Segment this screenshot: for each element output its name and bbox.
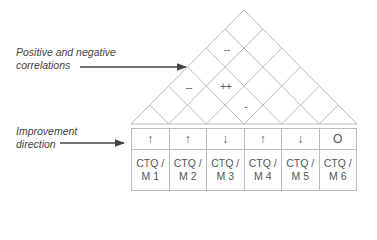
- ctq-label-line2: M 3: [207, 170, 244, 183]
- direction-cell: ↓: [207, 129, 245, 150]
- ctq-label-line2: M 1: [132, 170, 169, 183]
- ctq-label-line1: CTQ /: [132, 157, 169, 170]
- ctq-label-cell: CTQ /M 3: [207, 150, 245, 191]
- ctq-label-line1: CTQ /: [282, 157, 319, 170]
- improvement-direction-row: ↑ ↑ ↓ ↑ ↓ O: [132, 129, 357, 150]
- ctq-label-line2: M 5: [282, 170, 319, 183]
- ctq-label-cell: CTQ /M 5: [282, 150, 320, 191]
- ctq-label-line2: M 4: [245, 170, 282, 183]
- ctq-label-line1: CTQ /: [170, 157, 207, 170]
- ctq-label-line1: CTQ /: [245, 157, 282, 170]
- ctq-label-line1: CTQ /: [320, 157, 357, 170]
- ctq-label-row: CTQ /M 1 CTQ /M 2 CTQ /M 3 CTQ /M 4 CTQ …: [132, 150, 357, 191]
- ctq-label-line1: CTQ /: [207, 157, 244, 170]
- correlation-symbol: --: [224, 44, 231, 55]
- ctq-label-cell: CTQ /M 2: [169, 150, 207, 191]
- ctq-table: ↑ ↑ ↓ ↑ ↓ O CTQ /M 1 CTQ /M 2 CTQ /M 3 C…: [131, 128, 357, 191]
- direction-cell: ↑: [244, 129, 282, 150]
- direction-cell: O: [319, 129, 357, 150]
- ctq-label-cell: CTQ /M 6: [319, 150, 357, 191]
- correlation-symbol: -: [244, 101, 247, 112]
- ctq-label-line2: M 2: [170, 170, 207, 183]
- ctq-label-cell: CTQ /M 4: [244, 150, 282, 191]
- direction-cell: ↑: [132, 129, 170, 150]
- ctq-label-cell: CTQ /M 1: [132, 150, 170, 191]
- correlation-symbol: ++: [220, 81, 232, 92]
- direction-cell: ↑: [169, 129, 207, 150]
- correlation-symbol: --: [186, 82, 193, 93]
- direction-cell: ↓: [282, 129, 320, 150]
- ctq-label-line2: M 6: [320, 170, 357, 183]
